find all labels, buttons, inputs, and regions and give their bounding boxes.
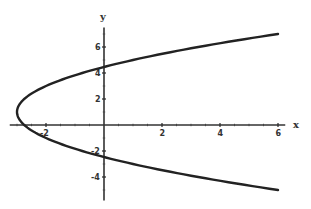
x-tick-label: 2: [160, 129, 166, 138]
x-axis-label: x: [293, 119, 300, 130]
y-axis-label: y: [99, 11, 107, 22]
y-tick-label: 6: [95, 43, 101, 52]
parabola-chart: -2246642-2-4 x y: [0, 0, 311, 209]
x-tick-label: 4: [218, 129, 224, 138]
y-tick-label: -4: [91, 173, 100, 182]
axes: [10, 28, 286, 201]
y-tick-label: 2: [95, 95, 101, 104]
parabola-curve: [17, 34, 278, 190]
x-tick-label: 6: [276, 129, 282, 138]
